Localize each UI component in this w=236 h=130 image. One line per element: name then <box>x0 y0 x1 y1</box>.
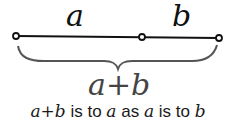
caption-part: is to <box>154 102 195 121</box>
caption-part: a <box>106 101 116 121</box>
point-middle <box>139 34 145 40</box>
label-a: a <box>66 0 84 33</box>
caption-part: a <box>144 101 154 121</box>
caption-part: b <box>195 101 206 121</box>
brace-label: a+b <box>88 67 150 102</box>
caption-part: a+b <box>30 101 65 121</box>
segment-line <box>16 36 219 38</box>
caption: a+b is to a as a is to b <box>0 101 236 122</box>
label-b: b <box>172 0 191 33</box>
point-left <box>13 33 19 39</box>
caption-part: as <box>116 102 143 121</box>
caption-part: is to <box>66 102 107 121</box>
curly-brace <box>18 45 217 69</box>
point-right <box>216 35 222 41</box>
